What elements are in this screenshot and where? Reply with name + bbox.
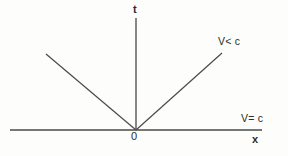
subluminal-label: V< c: [218, 36, 240, 47]
spacetime-diagram: t x 0 V< c V= c: [0, 0, 288, 156]
luminal-label: V= c: [241, 113, 263, 124]
x-axis-label: x: [252, 134, 258, 145]
t-axis-label: t: [133, 4, 137, 15]
left-worldline: [46, 54, 136, 130]
origin-label: 0: [131, 131, 137, 142]
right-worldline: [136, 53, 222, 130]
diagram-canvas: [0, 0, 288, 156]
